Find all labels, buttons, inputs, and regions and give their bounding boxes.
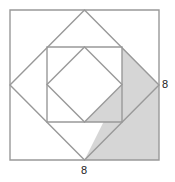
- geometry-canvas: [0, 0, 175, 182]
- bottom-side-length-label: 8: [81, 165, 87, 176]
- geometry-figure: 8 8: [0, 0, 175, 182]
- right-side-length-label: 8: [162, 79, 168, 90]
